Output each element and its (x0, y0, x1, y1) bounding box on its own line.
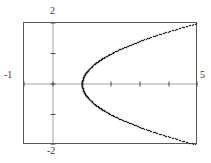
plot-canvas (24, 23, 198, 145)
plot-frame (23, 22, 197, 144)
axes-group (24, 23, 198, 145)
y-axis-min-label: -2 (47, 146, 55, 156)
y-axis-max-label: 2 (50, 6, 55, 16)
graph-figure: ) 2 -2 -1 5 (0, 0, 211, 163)
x-axis-min-label: -1 (4, 70, 12, 80)
x-axis-max-label: 5 (200, 70, 205, 80)
